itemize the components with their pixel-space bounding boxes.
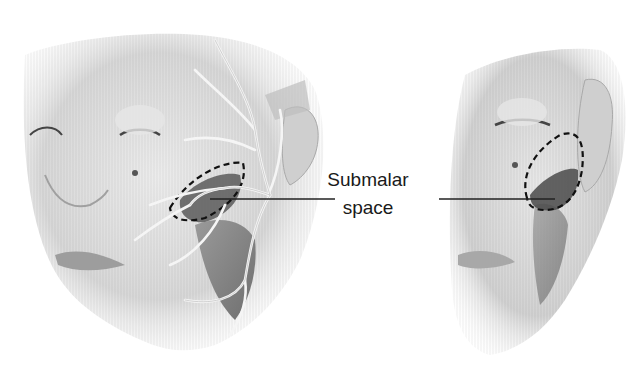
label-line-1: Submalar	[318, 166, 418, 194]
infraorbital-foramen	[132, 170, 138, 176]
left-face	[24, 34, 324, 351]
label-line-2: space	[318, 194, 418, 222]
right-face	[450, 49, 626, 355]
anatomical-illustration: Submalar space	[0, 0, 640, 387]
right-face-infraorbital-foramen	[512, 162, 518, 168]
submalar-space-label: Submalar space	[318, 166, 418, 222]
